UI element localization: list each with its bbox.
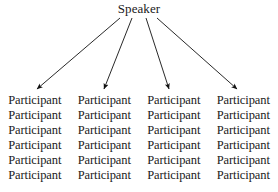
participant-label: Participant: [147, 168, 200, 183]
participant-label: Participant: [217, 138, 270, 153]
participant-label: Participant: [8, 93, 61, 108]
participant-label: Participant: [8, 153, 61, 168]
participant-label: Participant: [217, 93, 270, 108]
participant-label: Participant: [78, 108, 131, 123]
participant-label: Participant: [8, 108, 61, 123]
participant-label: Participant: [147, 153, 200, 168]
participant-label: Participant: [217, 168, 270, 183]
participant-label: Participant: [217, 153, 270, 168]
participant-label: Participant: [217, 123, 270, 138]
participant-label: Participant: [147, 93, 200, 108]
participant-label: Participant: [217, 108, 270, 123]
arrow-to-column-4: [157, 18, 237, 89]
participant-label: Participant: [8, 168, 61, 183]
arrow-to-column-1: [37, 18, 120, 89]
participant-label: Participant: [78, 138, 131, 153]
participant-label: Participant: [147, 123, 200, 138]
participant-label: Participant: [8, 138, 61, 153]
participant-label: Participant: [147, 138, 200, 153]
participant-label: Participant: [78, 168, 131, 183]
participant-label: Participant: [8, 123, 61, 138]
participant-label: Participant: [78, 123, 131, 138]
participants-grid: Participant Participant Participant Part…: [0, 93, 278, 183]
arrow-to-column-3: [146, 18, 169, 89]
participant-label: Participant: [147, 108, 200, 123]
diagram-canvas: Speaker Participant Participant Particip…: [0, 0, 278, 192]
participant-label: Participant: [78, 93, 131, 108]
participant-label: Participant: [78, 153, 131, 168]
